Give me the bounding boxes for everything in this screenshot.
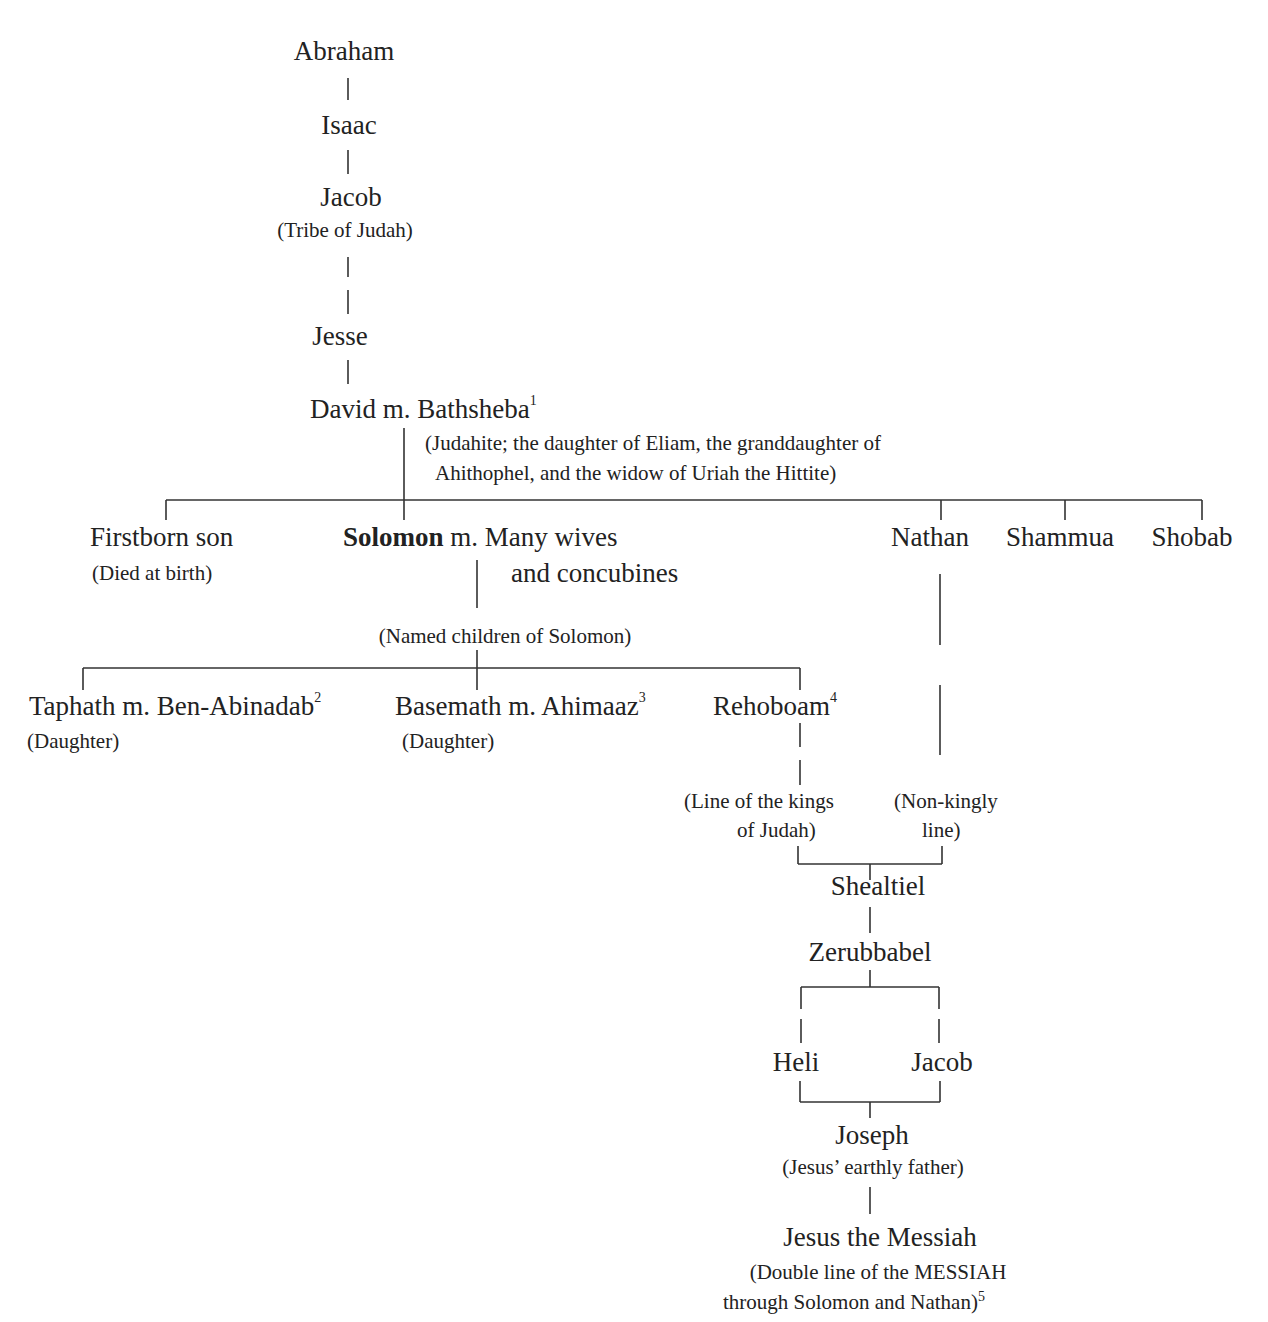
solomon-spouse-line2: and concubines xyxy=(511,560,678,587)
footnote-ref-3: 3 xyxy=(639,690,646,705)
kings-line-label-2: of Judah) xyxy=(737,820,816,841)
jesus-note-line2-text: through Solomon and Nathan) xyxy=(723,1290,978,1314)
node-joseph-note: (Jesus’ earthly father) xyxy=(782,1157,964,1178)
node-nathan: Nathan xyxy=(891,524,969,551)
nonkingly-line-label-2: line) xyxy=(922,820,960,841)
footnote-ref-2: 2 xyxy=(314,690,321,705)
node-david: David m. Bathsheba1 xyxy=(310,396,537,423)
connector-lines xyxy=(0,0,1268,1322)
basemath-name: Basemath m. Ahimaaz xyxy=(395,691,639,721)
node-jacob-patriarch-note: (Tribe of Judah) xyxy=(277,220,413,241)
node-firstborn-note: (Died at birth) xyxy=(92,563,212,584)
node-zerubbabel: Zerubbabel xyxy=(809,939,932,966)
node-solomon: Solomon m. Many wives xyxy=(343,524,618,551)
solomon-spouse: m. Many wives xyxy=(444,522,618,552)
node-firstborn-son: Firstborn son xyxy=(90,524,233,551)
footnote-ref-4: 4 xyxy=(830,690,837,705)
kings-line-label-1: (Line of the kings xyxy=(684,791,834,812)
node-abraham: Abraham xyxy=(294,38,394,65)
node-jesse: Jesse xyxy=(312,323,368,350)
solomon-children-label: (Named children of Solomon) xyxy=(379,626,632,647)
node-heli: Heli xyxy=(773,1049,820,1076)
node-basemath-note: (Daughter) xyxy=(402,731,494,752)
node-joseph: Joseph xyxy=(835,1122,909,1149)
node-jacob-father-of-joseph: Jacob xyxy=(911,1049,972,1076)
rehoboam-name: Rehoboam xyxy=(713,691,830,721)
node-jesus: Jesus the Messiah xyxy=(783,1224,976,1251)
node-isaac: Isaac xyxy=(321,112,376,139)
node-shobab: Shobab xyxy=(1152,524,1233,551)
david-name: David m. Bathsheba xyxy=(310,394,530,424)
footnote-ref-5: 5 xyxy=(978,1289,985,1304)
taphath-name: Taphath m. Ben-Abinadab xyxy=(29,691,314,721)
node-taphath-note: (Daughter) xyxy=(27,731,119,752)
bathsheba-note-line2: Ahithophel, and the widow of Uriah the H… xyxy=(435,463,836,484)
node-rehoboam: Rehoboam4 xyxy=(713,693,837,720)
footnote-ref-1: 1 xyxy=(530,393,537,408)
node-taphath: Taphath m. Ben-Abinadab2 xyxy=(29,693,321,720)
solomon-name: Solomon xyxy=(343,522,444,552)
node-jesus-note-line1: (Double line of the MESSIAH xyxy=(750,1262,1007,1283)
node-shealtiel: Shealtiel xyxy=(831,873,925,900)
node-shammua: Shammua xyxy=(1006,524,1114,551)
node-jesus-note-line2: through Solomon and Nathan)5 xyxy=(723,1292,985,1313)
node-jacob-patriarch: Jacob xyxy=(320,184,381,211)
bathsheba-note-line1: (Judahite; the daughter of Eliam, the gr… xyxy=(425,433,881,454)
nonkingly-line-label-1: (Non-kingly xyxy=(894,791,998,812)
node-basemath: Basemath m. Ahimaaz3 xyxy=(395,693,646,720)
